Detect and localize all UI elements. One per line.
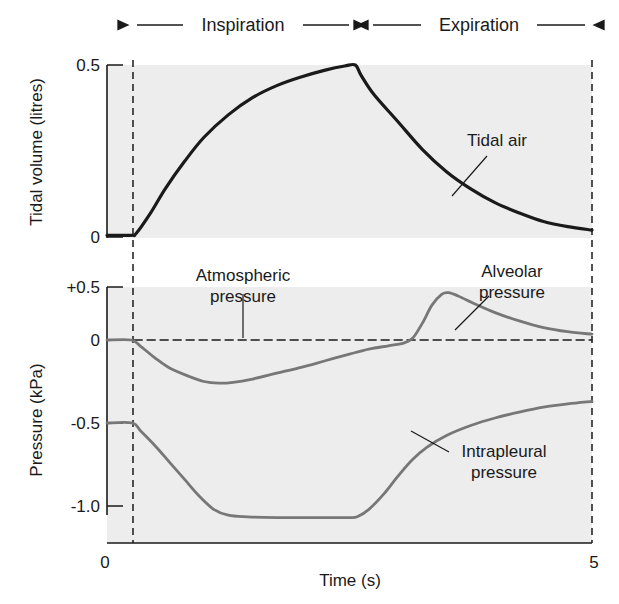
annotation-tidal-air: Tidal air — [467, 131, 527, 150]
bottom-tick-label-0: +0.5 — [66, 278, 100, 297]
phase-arrow-group — [118, 21, 604, 30]
bottom-tick-label-3: -1.0 — [71, 497, 100, 516]
phase-arrowhead — [594, 21, 604, 30]
bottom-tick-label-2: -0.5 — [71, 414, 100, 433]
bottom-panel-background — [107, 287, 592, 543]
top-axis-title: Tidal volume (litres) — [27, 78, 46, 226]
phase-arrowhead — [118, 21, 128, 30]
annotation-alveolar-pressure: Alveolarpressure — [479, 262, 545, 302]
figure-root: Inspiration Expiration 0.5 0 Tidal volum… — [0, 0, 619, 604]
x-tick-label-0: 0 — [100, 553, 109, 572]
top-tick-label-0: 0.5 — [76, 56, 100, 75]
phase-label-inspiration: Inspiration — [201, 15, 284, 35]
x-axis-title: Time (s) — [319, 571, 381, 590]
x-tick-label-1: 5 — [589, 553, 598, 572]
bottom-axis-title: Pressure (kPa) — [27, 363, 46, 476]
phase-label-expiration: Expiration — [439, 15, 519, 35]
bottom-tick-label-1: 0 — [91, 331, 100, 350]
respiratory-cycle-figure: Inspiration Expiration 0.5 0 Tidal volum… — [0, 0, 619, 604]
top-tick-label-1: 0 — [91, 228, 100, 247]
phase-arrowhead — [354, 21, 364, 30]
